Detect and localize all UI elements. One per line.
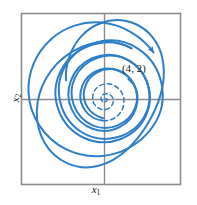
y-axis-label: x2 xyxy=(10,94,21,103)
spiral-trajectory xyxy=(28,22,173,156)
plot-canvas xyxy=(0,0,197,205)
phase-portrait-figure: x1 x2 (4, 2) xyxy=(0,0,197,205)
point-annotation-label: (4, 2) xyxy=(122,63,146,74)
x-axis-label: x1 xyxy=(92,184,101,195)
